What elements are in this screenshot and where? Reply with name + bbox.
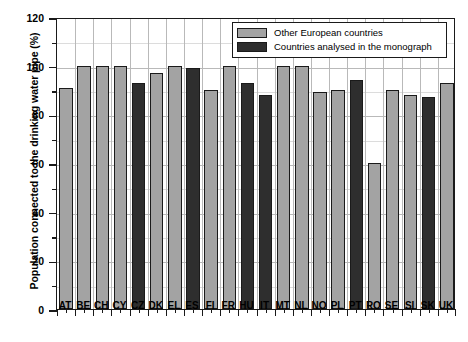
x-tick-label-dk: DK xyxy=(147,301,165,311)
y-tick-label: 40 xyxy=(4,208,44,219)
x-tick-label-hu: HU xyxy=(237,301,255,311)
bar-pt xyxy=(350,80,363,309)
gridline-vertical xyxy=(111,19,112,309)
y-tick-label: 100 xyxy=(4,62,44,73)
y-tick-label: 0 xyxy=(4,305,44,316)
x-tick-label-cz: CZ xyxy=(129,301,147,311)
gridline-vertical xyxy=(347,19,348,309)
y-tick-label: 80 xyxy=(4,110,44,121)
x-tick-label-se: SE xyxy=(382,301,400,311)
bar-at xyxy=(59,88,72,309)
bar-pl xyxy=(331,90,344,309)
legend-item-monograph: Countries analysed in the monograph xyxy=(237,40,441,54)
y-tick-label: 20 xyxy=(4,256,44,267)
bar-ch xyxy=(96,66,109,309)
chart-legend: Other European countries Countries analy… xyxy=(232,22,447,58)
x-tick-label-uk: UK xyxy=(437,301,455,311)
x-tick-label-at: AT xyxy=(56,301,74,311)
y-tick-minor xyxy=(52,91,57,92)
y-tick-minor xyxy=(52,237,57,238)
y-tick-major xyxy=(49,262,57,263)
bar-hu xyxy=(241,83,254,309)
bar-uk xyxy=(440,83,453,309)
bar-dk xyxy=(150,73,163,309)
y-tick-major xyxy=(49,116,57,117)
x-tick-label-el: EL xyxy=(165,301,183,311)
legend-label-monograph: Countries analysed in the monograph xyxy=(274,42,432,52)
x-tick-label-pt: PT xyxy=(346,301,364,311)
y-tick-major xyxy=(49,213,57,214)
bar-fi xyxy=(204,90,217,309)
gridline-vertical xyxy=(238,19,239,309)
x-tick-label-be: BE xyxy=(74,301,92,311)
gridline-vertical xyxy=(420,19,421,309)
x-tick-label-es: ES xyxy=(183,301,201,311)
gridline-vertical xyxy=(257,19,258,309)
gridline-vertical xyxy=(166,19,167,309)
y-tick-minor xyxy=(52,286,57,287)
y-tick-label: 120 xyxy=(4,13,44,24)
y-tick-major xyxy=(49,164,57,165)
gridline-vertical xyxy=(402,19,403,309)
y-tick-minor xyxy=(52,43,57,44)
gridline-vertical xyxy=(148,19,149,309)
gridline-vertical xyxy=(130,19,131,309)
bar-it xyxy=(259,95,272,309)
bar-es xyxy=(186,68,199,309)
gridline-vertical xyxy=(184,19,185,309)
bar-be xyxy=(77,66,90,309)
plot-area: Other European countries Countries analy… xyxy=(56,18,455,310)
y-tick-major xyxy=(49,18,57,19)
bar-sk xyxy=(422,97,435,309)
gridline-vertical xyxy=(438,19,439,309)
legend-swatch-other-icon xyxy=(237,28,267,38)
bar-ro xyxy=(368,163,381,309)
legend-label-other: Other European countries xyxy=(274,28,383,38)
x-tick-label-mt: MT xyxy=(274,301,292,311)
bar-no xyxy=(313,92,326,309)
gridline-vertical xyxy=(329,19,330,309)
legend-swatch-monograph-icon xyxy=(237,42,267,52)
bar-fr xyxy=(223,66,236,309)
legend-item-other: Other European countries xyxy=(237,26,441,40)
bar-cz xyxy=(132,83,145,309)
bar-si xyxy=(404,95,417,309)
bar-el xyxy=(168,66,181,309)
x-tick-label-it: IT xyxy=(256,301,274,311)
gridline-vertical xyxy=(293,19,294,309)
bar-nl xyxy=(295,66,308,309)
x-tick-label-ro: RO xyxy=(364,301,382,311)
gridline-vertical xyxy=(75,19,76,309)
x-tick-label-fi: FI xyxy=(201,301,219,311)
x-tick-label-no: NO xyxy=(310,301,328,311)
x-tick-label-cy: CY xyxy=(110,301,128,311)
x-tick-label-ch: CH xyxy=(92,301,110,311)
y-tick-minor xyxy=(52,140,57,141)
bar-mt xyxy=(277,66,290,309)
bar-se xyxy=(386,90,399,309)
gridline-vertical xyxy=(365,19,366,309)
bar-cy xyxy=(114,66,127,309)
y-tick-minor xyxy=(52,189,57,190)
y-tick-major xyxy=(49,67,57,68)
gridline-vertical xyxy=(202,19,203,309)
x-tick-label-sk: SK xyxy=(419,301,437,311)
x-tick-label-si: SI xyxy=(401,301,419,311)
x-tick-label-nl: NL xyxy=(292,301,310,311)
gridline-vertical xyxy=(93,19,94,309)
bar-chart-figure: Population connected to the drinking wat… xyxy=(0,0,468,342)
gridline-vertical xyxy=(383,19,384,309)
x-tick-label-fr: FR xyxy=(219,301,237,311)
gridline-vertical xyxy=(275,19,276,309)
gridline-vertical xyxy=(220,19,221,309)
y-tick-label: 60 xyxy=(4,159,44,170)
x-tick-label-pl: PL xyxy=(328,301,346,311)
gridline-vertical xyxy=(311,19,312,309)
